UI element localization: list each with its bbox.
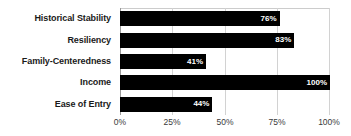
bar-income: 100% bbox=[120, 75, 330, 90]
bar-value-historical-stability: 76% bbox=[261, 15, 277, 23]
horizontal-bar-chart: Historical Stability Resiliency Family-C… bbox=[0, 0, 351, 136]
xtick-label-0: 0% bbox=[114, 118, 126, 127]
bar-ease-of-entry: 44% bbox=[120, 97, 212, 112]
xtick-label-50: 50% bbox=[216, 118, 233, 127]
bar-series: 76% 83% 41% 100% 44% bbox=[120, 8, 330, 115]
bar-historical-stability: 76% bbox=[120, 11, 280, 26]
plot-area: 76% 83% 41% 100% 44% bbox=[120, 8, 330, 115]
bar-row: 41% bbox=[120, 51, 330, 72]
category-label-resiliency: Resiliency bbox=[67, 36, 111, 45]
bar-row: 83% bbox=[120, 29, 330, 50]
bar-family-centeredness: 41% bbox=[120, 54, 206, 69]
bar-row: 76% bbox=[120, 8, 330, 29]
category-label-row: Historical Stability bbox=[0, 8, 116, 29]
bar-value-resiliency: 83% bbox=[275, 36, 291, 44]
bar-value-family-centeredness: 41% bbox=[187, 58, 203, 66]
bar-row: 100% bbox=[120, 72, 330, 93]
xtick-label-100: 100% bbox=[318, 118, 340, 127]
x-axis-tick-labels: 0% 25% 50% 75% 100% bbox=[120, 118, 330, 132]
category-label-row: Income bbox=[0, 72, 116, 93]
bar-value-income: 100% bbox=[307, 79, 327, 87]
category-label-income: Income bbox=[80, 78, 111, 87]
category-label-family-centeredness: Family-Centeredness bbox=[22, 57, 111, 66]
category-label-row: Family-Centeredness bbox=[0, 51, 116, 72]
category-label-row: Resiliency bbox=[0, 29, 116, 50]
xtick-label-25: 25% bbox=[163, 118, 180, 127]
category-label-historical-stability: Historical Stability bbox=[34, 14, 111, 23]
xtick-label-75: 75% bbox=[268, 118, 285, 127]
category-axis-labels: Historical Stability Resiliency Family-C… bbox=[0, 8, 116, 115]
category-label-ease-of-entry: Ease of Entry bbox=[55, 100, 111, 109]
bar-resiliency: 83% bbox=[120, 33, 294, 48]
bar-row: 44% bbox=[120, 94, 330, 115]
bar-value-ease-of-entry: 44% bbox=[193, 100, 209, 108]
category-label-row: Ease of Entry bbox=[0, 94, 116, 115]
